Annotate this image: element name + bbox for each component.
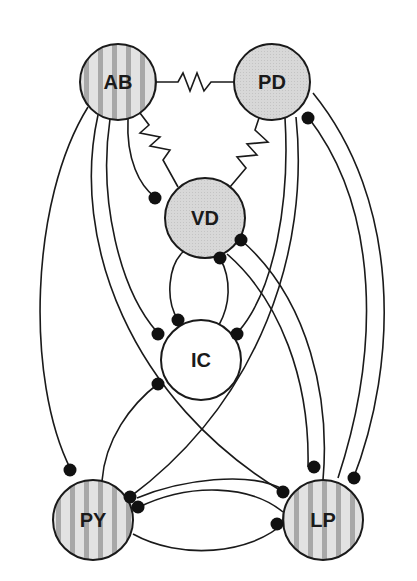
synapse-dot-ab-ic bbox=[152, 328, 165, 341]
node-ab-label: AB bbox=[104, 71, 133, 93]
neural-circuit-diagram: AB PD VD IC PY LP bbox=[0, 0, 417, 581]
synapse-dot-pd-ic bbox=[231, 328, 244, 341]
node-py-label: PY bbox=[80, 509, 107, 531]
synapse-dot-vd-ic bbox=[172, 314, 185, 327]
edge-py-lp bbox=[133, 522, 285, 551]
node-py: PY bbox=[53, 480, 133, 560]
synapse-dot-ab-py bbox=[64, 464, 77, 477]
edge-vd-ic bbox=[219, 258, 228, 325]
edge-ab-ic bbox=[107, 119, 157, 332]
node-ic: IC bbox=[161, 320, 241, 400]
edge-lp-py bbox=[137, 479, 284, 498]
synapse-dot-lp-vd bbox=[235, 234, 248, 247]
node-ab: AB bbox=[80, 44, 156, 120]
node-pd: PD bbox=[234, 44, 310, 120]
edge-ab-lp bbox=[91, 115, 283, 492]
node-ic-label: IC bbox=[191, 349, 211, 371]
synapse-dot-ic-vd bbox=[214, 252, 227, 265]
synapse-dot-vd-lp bbox=[348, 472, 361, 485]
synapse-dot-ab-vd bbox=[149, 192, 162, 205]
synapse-dot-lp-pd bbox=[302, 112, 315, 125]
edge-py-lp-top bbox=[137, 490, 283, 512]
synapse-dot-ic-py bbox=[152, 378, 165, 391]
gap-junction-pd-vd bbox=[230, 118, 268, 187]
gap-junction-ab-pd bbox=[156, 73, 234, 91]
synapse-dot-py-lp bbox=[271, 518, 284, 531]
gap-junction-ab-vd bbox=[140, 113, 178, 187]
node-vd: VD bbox=[165, 178, 245, 258]
synapse-dot-ab-lp bbox=[277, 486, 290, 499]
synapse-dot-lp-py bbox=[132, 501, 145, 514]
node-pd-label: PD bbox=[258, 71, 286, 93]
edge-py-ic bbox=[102, 383, 159, 481]
edge-ab-py bbox=[40, 107, 88, 470]
node-vd-label: VD bbox=[191, 207, 219, 229]
node-lp: LP bbox=[283, 480, 363, 560]
synapse-dot-pd-lp bbox=[308, 461, 321, 474]
node-lp-label: LP bbox=[310, 509, 336, 531]
edge-ic-vd bbox=[170, 251, 184, 320]
